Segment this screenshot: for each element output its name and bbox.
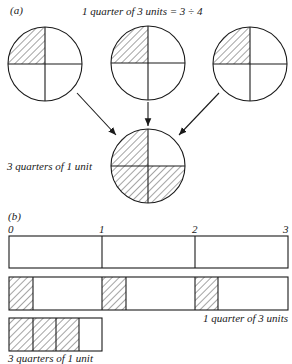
tick-1: 1	[99, 223, 105, 235]
source-circle-1	[8, 27, 82, 101]
bar-label-3-quarters-of-1-unit: 3 quarters of 1 unit	[7, 352, 94, 364]
part-b-label: (b)	[8, 210, 21, 223]
result-label: 3 quarters of 1 unit	[6, 160, 93, 172]
tick-0: 0	[8, 223, 14, 235]
result-circle	[111, 129, 185, 203]
fraction-diagram: (a) 1 quarter of 3 units = 3 ÷ 4 3 quart…	[0, 0, 292, 364]
bar-quarter-of-each-unit	[9, 277, 288, 310]
tick-3: 3	[282, 223, 289, 235]
arrow-left-icon	[77, 93, 116, 135]
part-a-title: 1 quarter of 3 units = 3 ÷ 4	[82, 5, 203, 17]
bar-three-quarters	[9, 318, 102, 351]
source-circle-3	[213, 27, 287, 101]
part-a-label: (a)	[10, 4, 23, 17]
source-circle-2	[111, 26, 185, 100]
tick-2: 2	[192, 223, 198, 235]
arrow-right-icon	[179, 93, 219, 135]
bar-label-quarter-of-3-units: 1 quarter of 3 units	[203, 312, 288, 324]
bar-three-units	[9, 236, 288, 268]
